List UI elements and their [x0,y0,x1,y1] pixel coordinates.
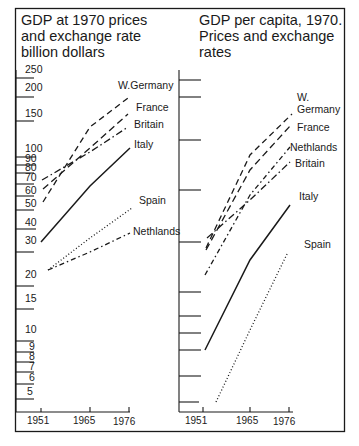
right-label-spain: Spain [304,238,331,250]
line-britain [42,127,128,180]
ytick-10: 10 [25,323,37,335]
right-label-nethlands: Nethlands [290,141,337,153]
ytick-5: 5 [27,385,33,397]
right-line-nethlands [205,147,290,275]
right-label-france: France [297,121,330,133]
right-x-tick-labels: 1951 1965 1976 [185,415,296,427]
chart-svg: 250 200 150 100 90 80 70 60 50 40 30 20 … [0,0,359,446]
ytick-60: 60 [25,184,37,196]
right-label-w: W. [297,91,309,103]
xtick-1951: 1951 [27,415,50,426]
left-series-labels: W.Germany France Britain Italy Spain Net… [118,79,180,237]
label-france: France [136,101,169,113]
line-france [43,114,128,189]
left-x-tick-labels: 1951 1965 1976 [27,415,136,427]
right-xtick-1976: 1976 [273,416,296,427]
right-line-spain [216,252,288,402]
line-italy [41,148,130,242]
label-italy: Italy [134,138,154,150]
right-series-labels: W. Germany France Nethlands Britain Ital… [290,91,341,250]
ytick-150: 150 [25,107,43,119]
left-y-tick-labels: 250 200 150 100 90 80 70 60 50 40 30 20 … [25,63,43,397]
line-wgermany [43,98,128,202]
ytick-40: 40 [25,216,37,228]
ytick-50: 50 [25,197,37,209]
right-line-france [206,126,290,250]
right-line-italy [205,205,290,350]
xtick-1976: 1976 [113,416,136,427]
ytick-200: 200 [25,81,43,93]
ytick-30: 30 [25,234,37,246]
line-spain [48,208,132,270]
ytick-70: 70 [25,171,37,183]
xtick-1965: 1965 [73,415,96,426]
label-spain: Spain [139,194,166,206]
right-xtick-1951: 1951 [185,415,208,426]
right-label-italy: Italy [299,190,319,202]
label-wgermany: W.Germany [118,79,174,91]
ytick-20: 20 [25,268,37,280]
right-line-britain [207,162,290,238]
ytick-250: 250 [25,63,43,75]
right-xtick-1965: 1965 [236,415,259,426]
right-label-germany: Germany [297,103,341,115]
label-britain: Britain [134,118,164,130]
right-series-lines [205,114,292,402]
left-x-axis [16,407,130,412]
left-series-lines [41,98,132,270]
right-x-axis [179,407,293,412]
right-label-britain: Britain [295,157,325,169]
label-nethlands: Nethlands [133,225,180,237]
outer-frame [16,9,345,432]
right-y-axis [179,70,201,412]
ytick-15: 15 [25,292,37,304]
chart-figure: GDP at 1970 prices and exchange rate bil… [0,0,359,446]
ytick-6: 6 [29,371,35,383]
